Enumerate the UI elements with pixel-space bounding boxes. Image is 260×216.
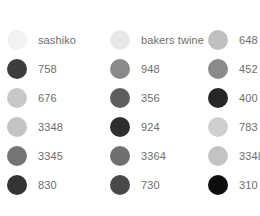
swatch-row[interactable]: 310 <box>200 174 258 196</box>
swatch-row[interactable]: 3348 <box>0 116 63 138</box>
color-swatch-icon <box>7 59 27 79</box>
swatch-label: 310 <box>239 174 258 196</box>
swatch-label: 3364 <box>141 145 166 167</box>
swatch-label: 676 <box>38 87 57 109</box>
swatch-label: 783 <box>239 116 258 138</box>
color-swatch-icon <box>208 88 228 108</box>
swatch-label: 452 <box>239 58 258 80</box>
color-swatch-icon <box>7 146 27 166</box>
swatch-label: 830 <box>38 174 57 196</box>
swatch-label: bakers twine <box>141 29 204 51</box>
color-swatch-icon <box>110 146 130 166</box>
swatch-label: 356 <box>141 87 160 109</box>
swatch-row[interactable]: 730 <box>103 174 160 196</box>
swatch-row[interactable]: bakers twine <box>103 29 204 51</box>
swatch-row[interactable]: 400 <box>200 87 258 109</box>
swatch-row[interactable]: 648 <box>200 29 258 51</box>
color-swatch-icon <box>110 88 130 108</box>
swatch-label: sashiko <box>38 29 76 51</box>
swatch-column-3: 648 452 400 783 3348 310 <box>200 0 260 216</box>
swatch-row[interactable]: 452 <box>200 58 258 80</box>
swatch-label: 400 <box>239 87 258 109</box>
color-swatch-icon <box>110 59 130 79</box>
swatch-row[interactable]: 3348 <box>200 145 260 167</box>
swatch-column-2: bakers twine 948 356 924 3364 730 <box>103 0 200 216</box>
swatch-row[interactable]: 3364 <box>103 145 166 167</box>
swatch-row[interactable]: 356 <box>103 87 160 109</box>
swatch-column-1: sashiko 758 676 3348 3345 830 <box>0 0 103 216</box>
color-swatch-icon <box>208 175 228 195</box>
color-swatch-icon <box>7 175 27 195</box>
color-swatch-legend: sashiko 758 676 3348 3345 830 bakers twi… <box>0 0 260 216</box>
swatch-row[interactable]: 783 <box>200 116 258 138</box>
swatch-label: 730 <box>141 174 160 196</box>
swatch-label: 758 <box>38 58 57 80</box>
swatch-row[interactable]: 758 <box>0 58 57 80</box>
color-swatch-icon <box>7 117 27 137</box>
color-swatch-icon <box>110 175 130 195</box>
color-swatch-icon <box>208 117 228 137</box>
color-swatch-icon <box>208 59 228 79</box>
color-swatch-icon <box>7 30 27 50</box>
color-swatch-icon <box>110 30 130 50</box>
swatch-label: 924 <box>141 116 160 138</box>
swatch-label: 3348 <box>38 116 63 138</box>
swatch-row[interactable]: 948 <box>103 58 160 80</box>
swatch-row[interactable]: 830 <box>0 174 57 196</box>
swatch-row[interactable]: 3345 <box>0 145 63 167</box>
swatch-label: 3345 <box>38 145 63 167</box>
swatch-row[interactable]: 924 <box>103 116 160 138</box>
swatch-row[interactable]: 676 <box>0 87 57 109</box>
color-swatch-icon <box>7 88 27 108</box>
color-swatch-icon <box>208 146 228 166</box>
swatch-label: 948 <box>141 58 160 80</box>
swatch-label: 3348 <box>239 145 260 167</box>
swatch-row[interactable]: sashiko <box>0 29 76 51</box>
color-swatch-icon <box>110 117 130 137</box>
swatch-label: 648 <box>239 29 258 51</box>
color-swatch-icon <box>208 30 228 50</box>
